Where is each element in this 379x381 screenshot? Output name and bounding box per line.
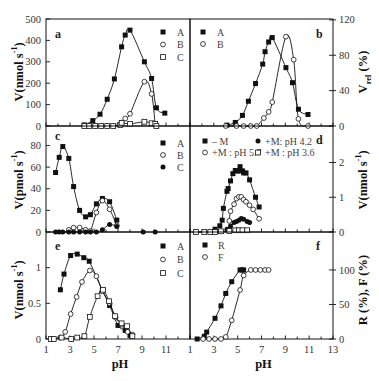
- data-point: [223, 291, 228, 296]
- legend-marker: [203, 139, 208, 144]
- legend: – M+M: pH 4.2+M : pH 5.7+M : pH 3.6: [203, 136, 315, 159]
- data-point: [260, 62, 265, 67]
- data-point: [119, 321, 124, 326]
- legend-label: C: [177, 162, 184, 173]
- data-point: [305, 112, 310, 117]
- x-tick-label: 7: [115, 344, 120, 355]
- data-point: [87, 259, 92, 264]
- data-point: [107, 207, 112, 212]
- data-point: [77, 225, 82, 230]
- data-point: [296, 117, 301, 122]
- data-point: [221, 206, 226, 211]
- data-point: [284, 34, 289, 39]
- data-point: [257, 216, 262, 221]
- x-tick-label: 5: [91, 344, 96, 355]
- y-tick-label: 2: [339, 157, 344, 168]
- legend-item: +M : pH 3.6: [256, 147, 315, 158]
- legend-marker: [201, 30, 206, 35]
- legend-label: B: [177, 39, 184, 50]
- legend-label: +M : pH 5.7: [212, 147, 262, 158]
- data-point: [247, 203, 252, 208]
- x-axis-title: pH: [255, 357, 272, 371]
- legend-marker: [161, 165, 166, 170]
- x-tick-label: 1: [187, 344, 192, 355]
- data-point: [128, 111, 133, 116]
- data-point: [53, 170, 58, 175]
- y-axis-title-part: V(nmol s: [12, 271, 26, 319]
- data-point: [217, 223, 222, 228]
- data-point: [270, 100, 275, 105]
- data-point: [261, 116, 266, 121]
- legend-marker: [161, 153, 166, 158]
- x-axis-title: pH: [112, 357, 129, 371]
- data-point: [227, 229, 232, 234]
- legend-label: C: [177, 52, 184, 63]
- data-point: [83, 214, 88, 219]
- data-point: [195, 337, 200, 342]
- data-point: [241, 273, 246, 278]
- data-point: [112, 76, 117, 81]
- data-point: [68, 312, 73, 317]
- data-point: [291, 57, 296, 62]
- data-point: [162, 111, 167, 116]
- y-axis-title-part: -1: [354, 155, 363, 162]
- data-point: [57, 155, 62, 160]
- data-point: [63, 329, 68, 334]
- data-point: [130, 334, 135, 339]
- legend-label: B: [177, 254, 184, 265]
- data-point: [251, 207, 256, 212]
- legend-label: R: [218, 240, 225, 251]
- legend-label: B: [177, 150, 184, 161]
- legend-label: A: [217, 27, 225, 38]
- y-tick-label: 200: [25, 78, 41, 89]
- data-point: [149, 92, 154, 97]
- data-point: [75, 335, 80, 340]
- legend-marker: [161, 42, 166, 47]
- data-point: [228, 178, 233, 183]
- legend-marker: [161, 55, 166, 60]
- data-point: [142, 79, 147, 84]
- x-tick-label: 7: [259, 344, 264, 355]
- panel-label: e: [55, 239, 61, 253]
- data-point: [107, 222, 112, 227]
- data-point: [226, 186, 231, 191]
- legend-marker: [161, 271, 166, 276]
- data-point: [71, 184, 76, 189]
- data-point: [113, 314, 118, 319]
- y-axis-title-part: R (%), F (%): [356, 255, 370, 325]
- data-point: [51, 337, 56, 342]
- data-point: [229, 279, 234, 284]
- panel-label: c: [55, 129, 61, 143]
- data-point: [75, 252, 80, 257]
- data-point: [119, 120, 124, 125]
- data-point: [100, 198, 105, 203]
- data-point: [60, 144, 65, 149]
- data-point: [241, 267, 246, 272]
- data-point: [246, 99, 251, 104]
- y-tick-label: 120: [339, 14, 355, 25]
- data-point: [114, 224, 119, 229]
- x-tick-label: 1: [43, 344, 48, 355]
- data-point: [290, 80, 295, 85]
- data-point: [244, 170, 249, 175]
- data-point: [87, 314, 92, 319]
- x-tick-label: 3: [211, 344, 216, 355]
- legend-label: A: [177, 241, 185, 252]
- legend-marker: [203, 150, 208, 155]
- data-point: [235, 169, 240, 174]
- data-point: [232, 202, 237, 207]
- y-tick-label: 0: [339, 334, 344, 345]
- legend-label: F: [218, 252, 224, 263]
- legend-marker: [161, 257, 166, 262]
- data-point: [248, 268, 253, 273]
- y-tick-label: 0.5: [28, 298, 41, 309]
- data-point: [201, 337, 206, 342]
- data-point: [204, 330, 209, 335]
- y-axis-title-part: V(pmol s: [12, 161, 26, 209]
- data-point: [253, 81, 258, 86]
- x-tick-label: 11: [161, 344, 171, 355]
- y-axis-title-part: V(nmol s: [356, 161, 370, 209]
- y-tick-label: 500: [25, 14, 41, 25]
- y-tick-label: 80: [31, 140, 42, 151]
- data-point: [228, 209, 233, 214]
